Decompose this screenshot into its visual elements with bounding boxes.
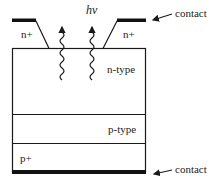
photon-arrow-right-icon bbox=[90, 27, 94, 80]
top-contact-right bbox=[117, 19, 146, 23]
bottom-contact bbox=[12, 170, 146, 174]
photodiode-diagram: hν contact contact n+ n+ n-type p-type p… bbox=[0, 0, 223, 183]
top-contact-left bbox=[12, 19, 36, 23]
bottom-contact-arrow-icon bbox=[154, 170, 172, 174]
bottom-contact-label: contact bbox=[175, 163, 207, 175]
n-plus-left-label: n+ bbox=[21, 28, 33, 40]
p-type-label: p-type bbox=[108, 123, 136, 135]
n-type-label: n-type bbox=[107, 63, 135, 75]
photon-arrow-left-icon bbox=[60, 27, 64, 80]
top-contact-label: contact bbox=[175, 7, 207, 19]
p-plus-label: p+ bbox=[20, 152, 32, 164]
top-contact-arrow-icon bbox=[153, 14, 172, 20]
photon-label: hν bbox=[86, 3, 98, 17]
n-plus-right-label: n+ bbox=[123, 28, 135, 40]
